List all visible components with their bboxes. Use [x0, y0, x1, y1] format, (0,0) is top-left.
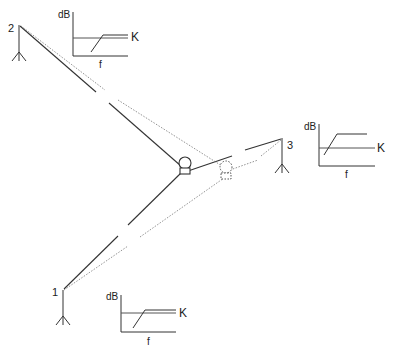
- graph-1-y-label: dB: [106, 292, 118, 302]
- graph-1-x-label: f: [147, 337, 150, 347]
- apparent-source-icon: [220, 161, 232, 179]
- solid-paths: [20, 26, 281, 289]
- actual-source-icon: [179, 157, 191, 174]
- diagram-canvas: [0, 0, 397, 354]
- graph-station-1: [121, 295, 176, 332]
- station-1-label: 1: [52, 287, 58, 298]
- graph-station-3: [319, 124, 375, 166]
- graph-3-threshold-label: K: [377, 142, 385, 154]
- graph-3-y-label: dB: [304, 122, 316, 132]
- graph-1-threshold-label: K: [179, 307, 187, 319]
- station-2-label: 2: [8, 23, 14, 34]
- graph-2-y-label: dB: [58, 10, 70, 20]
- graph-2-threshold-label: K: [131, 31, 139, 43]
- station-3-label: 3: [287, 140, 293, 151]
- graph-3-x-label: f: [345, 170, 348, 180]
- dotted-paths: [21, 26, 281, 290]
- graph-station-2: [73, 12, 128, 56]
- graph-2-x-label: f: [99, 60, 102, 70]
